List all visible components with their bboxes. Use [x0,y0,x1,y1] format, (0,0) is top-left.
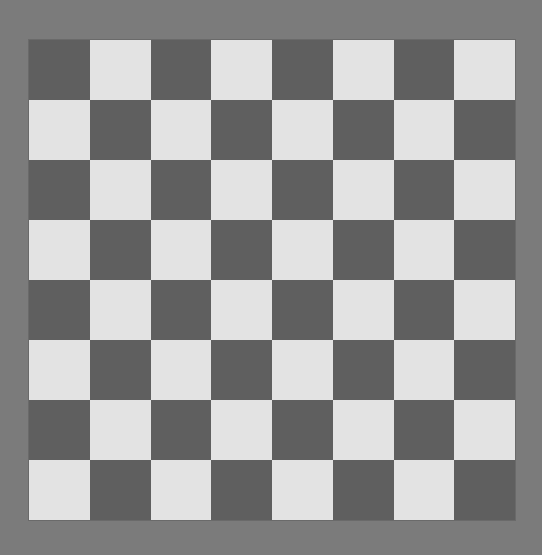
board-square-a1[interactable] [29,460,90,520]
board-square-d8[interactable] [211,40,272,100]
board-square-b4[interactable] [90,280,151,340]
board-square-c1[interactable] [151,460,212,520]
board-square-d6[interactable] [211,160,272,220]
board-square-f1[interactable] [333,460,394,520]
board-square-g3[interactable] [394,340,455,400]
board-square-d7[interactable] [211,100,272,160]
board-square-e3[interactable] [272,340,333,400]
board-square-d3[interactable] [211,340,272,400]
board-square-g7[interactable] [394,100,455,160]
board-square-d2[interactable] [211,400,272,460]
board-square-b8[interactable] [90,40,151,100]
board-square-c3[interactable] [151,340,212,400]
board-square-c2[interactable] [151,400,212,460]
board-square-g5[interactable] [394,220,455,280]
board-square-h3[interactable] [454,340,515,400]
board-square-f6[interactable] [333,160,394,220]
board-square-c5[interactable] [151,220,212,280]
board-square-e8[interactable] [272,40,333,100]
board-square-e2[interactable] [272,400,333,460]
board-square-c7[interactable] [151,100,212,160]
board-square-d5[interactable] [211,220,272,280]
board-square-b7[interactable] [90,100,151,160]
board-square-g6[interactable] [394,160,455,220]
board-square-a8[interactable] [29,40,90,100]
board-square-a3[interactable] [29,340,90,400]
board-square-h1[interactable] [454,460,515,520]
board-square-g4[interactable] [394,280,455,340]
board-square-f3[interactable] [333,340,394,400]
board-square-a5[interactable] [29,220,90,280]
board-square-b1[interactable] [90,460,151,520]
game-window: { "board": { "rows": 8, "cols": 8, "top_… [0,0,542,555]
board-square-f4[interactable] [333,280,394,340]
board-square-f2[interactable] [333,400,394,460]
board-square-c4[interactable] [151,280,212,340]
board-square-c8[interactable] [151,40,212,100]
board-square-f5[interactable] [333,220,394,280]
board-square-f8[interactable] [333,40,394,100]
board-square-h4[interactable] [454,280,515,340]
board-square-h8[interactable] [454,40,515,100]
board-square-e5[interactable] [272,220,333,280]
board-square-h5[interactable] [454,220,515,280]
board-square-b6[interactable] [90,160,151,220]
board-square-b2[interactable] [90,400,151,460]
board-square-a2[interactable] [29,400,90,460]
board-square-f7[interactable] [333,100,394,160]
board-square-d1[interactable] [211,460,272,520]
board-square-a4[interactable] [29,280,90,340]
board-square-b5[interactable] [90,220,151,280]
board-square-e7[interactable] [272,100,333,160]
board-square-g2[interactable] [394,400,455,460]
board-square-c6[interactable] [151,160,212,220]
board-square-h6[interactable] [454,160,515,220]
board-square-a6[interactable] [29,160,90,220]
board-square-e1[interactable] [272,460,333,520]
board-square-g8[interactable] [394,40,455,100]
board-square-e4[interactable] [272,280,333,340]
board-square-h7[interactable] [454,100,515,160]
board-square-a7[interactable] [29,100,90,160]
board-square-h2[interactable] [454,400,515,460]
board-square-d4[interactable] [211,280,272,340]
board-square-b3[interactable] [90,340,151,400]
chess-board [29,40,515,520]
board-square-e6[interactable] [272,160,333,220]
board-square-g1[interactable] [394,460,455,520]
